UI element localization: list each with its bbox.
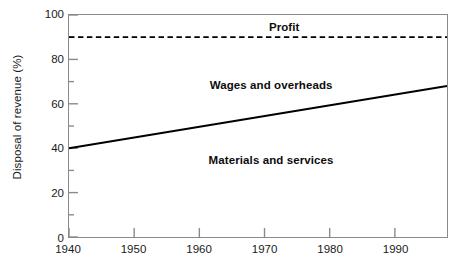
y-tick-label: 40 [30,142,64,154]
x-tick-label: 1960 [186,243,212,255]
x-tick-label: 1970 [252,243,278,255]
y-tick-label: 20 [30,187,64,199]
x-tick-label: 1940 [55,243,81,255]
annotation-label: Profit [269,21,300,33]
y-minor-tick-marks [69,37,74,215]
y-tick-label: 60 [30,98,64,110]
x-axis-tick-labels: 194019501960197019801990 [68,243,448,261]
x-tick-label: 1980 [317,243,343,255]
data-series-lines [69,37,447,148]
plot-svg [69,15,447,237]
annotation-label: Wages and overheads [210,79,333,91]
x-tick-label: 1990 [383,243,409,255]
x-major-tick-marks [69,228,395,237]
x-tick-label: 1950 [121,243,147,255]
annotation-label: Materials and services [209,154,334,166]
plot-area [68,14,448,238]
y-tick-label: 80 [30,53,64,65]
y-tick-label: 100 [30,8,64,20]
chart-figure: Disposal of revenue (%) 020406080100 194… [0,0,465,278]
series-line-0 [69,86,447,148]
y-axis-tick-labels: 020406080100 [24,14,64,238]
